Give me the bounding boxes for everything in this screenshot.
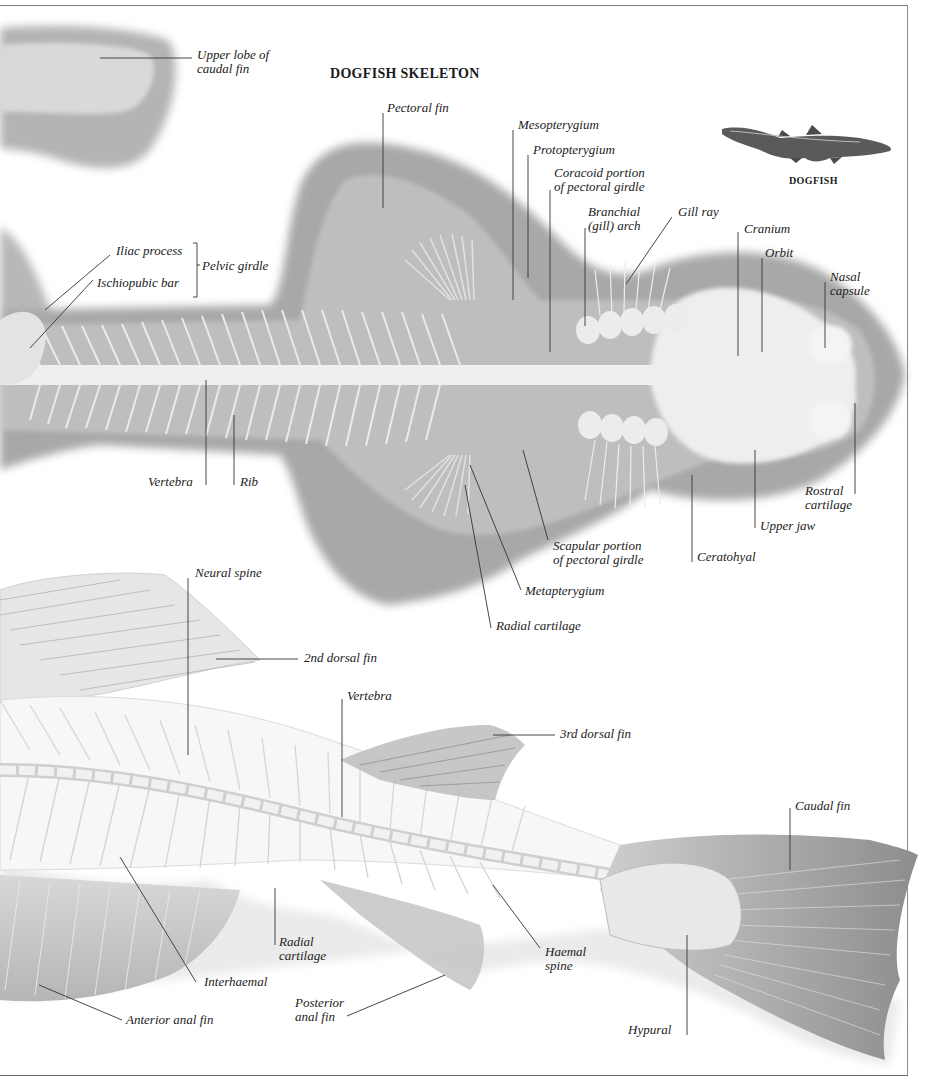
dogfish-vertebral-column xyxy=(0,365,700,385)
label-ceratohyal: Ceratohyal xyxy=(697,550,756,564)
label-mesopterygium: Mesopterygium xyxy=(518,118,599,132)
label-anterior-anal-fin: Anterior anal fin xyxy=(126,1013,213,1027)
label-third-dorsal-fin: 3rd dorsal fin xyxy=(560,727,631,741)
label-orbit: Orbit xyxy=(765,246,793,260)
label-coracoid-line1: Coracoid portion xyxy=(554,166,645,180)
label-rib: Rib xyxy=(240,475,258,489)
label-upper-jaw: Upper jaw xyxy=(760,519,815,533)
label-hypural: Hypural xyxy=(628,1023,671,1037)
label-gill-ray: Gill ray xyxy=(678,205,719,219)
label-protopterygium: Protopterygium xyxy=(533,143,615,157)
label-vertebra-dogfish: Vertebra xyxy=(148,475,193,489)
dogfish-upper-caudal-lobe xyxy=(0,26,176,169)
label-posterior-line1: Posterior xyxy=(295,996,344,1010)
label-coracoid-line2: of pectoral girdle xyxy=(554,180,645,194)
bony-fish-second-dorsal-fin xyxy=(0,573,260,700)
label-second-dorsal-fin: 2nd dorsal fin xyxy=(304,651,377,665)
label-ischiopubic-bar: Ischiopubic bar xyxy=(97,276,179,290)
label-pectoral-fin: Pectoral fin xyxy=(387,101,449,115)
label-radial-line2: cartilage xyxy=(279,949,326,963)
label-posterior-line2: anal fin xyxy=(295,1010,335,1024)
diagram-title: DOGFISH SKELETON xyxy=(330,66,480,82)
label-scapular-line1: Scapular portion xyxy=(553,539,641,553)
dogfish-inset-illustration xyxy=(722,125,891,164)
label-radial-line1: Radial xyxy=(279,935,314,949)
label-iliac-process: Iliac process xyxy=(116,244,182,258)
label-nasal-line1: Nasal xyxy=(830,270,860,284)
label-branchial-line2: (gill) arch xyxy=(588,219,641,233)
label-interhaemal: Interhaemal xyxy=(204,975,267,989)
label-cranium: Cranium xyxy=(744,222,790,236)
label-radial-cartilage-dogfish: Radial cartilage xyxy=(496,619,581,633)
label-upper-lobe-line2: caudal fin xyxy=(197,62,249,76)
label-nasal-line2: capsule xyxy=(830,284,870,298)
label-caudal-fin: Caudal fin xyxy=(795,799,850,813)
label-pelvic-girdle: Pelvic girdle xyxy=(202,259,268,273)
label-scapular-line2: of pectoral girdle xyxy=(553,553,644,567)
label-haemal-line2: spine xyxy=(545,959,572,973)
label-vertebra-bony: Vertebra xyxy=(347,689,392,703)
bony-fish-hypural xyxy=(600,863,741,950)
bony-fish-body xyxy=(0,696,620,880)
label-haemal-line1: Haemal xyxy=(545,945,586,959)
label-rostral-line2: cartilage xyxy=(805,498,852,512)
label-neural-spine: Neural spine xyxy=(195,566,262,580)
inset-caption: DOGFISH xyxy=(789,175,838,186)
label-upper-lobe-line1: Upper lobe of xyxy=(197,48,269,62)
skeleton-illustration xyxy=(0,0,941,1081)
label-metapterygium: Metapterygium xyxy=(525,584,604,598)
label-rostral-line1: Rostral xyxy=(805,484,843,498)
label-branchial-line1: Branchial xyxy=(588,205,640,219)
